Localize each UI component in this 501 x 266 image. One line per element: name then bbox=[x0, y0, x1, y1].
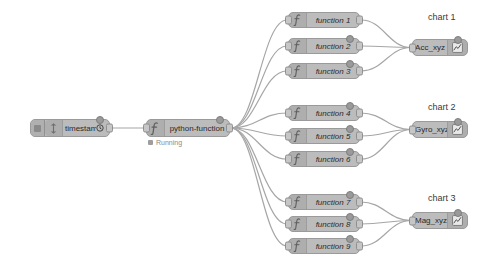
function-input-port[interactable] bbox=[285, 242, 292, 251]
wire-function-to-chart bbox=[361, 221, 411, 225]
wire-function-to-chart bbox=[361, 221, 411, 247]
chart-node-label: Acc_xyz bbox=[413, 43, 447, 52]
function-node-label: function 2 bbox=[307, 42, 359, 51]
function-node[interactable]: function 4 bbox=[288, 105, 360, 121]
function-node-marker bbox=[346, 102, 354, 110]
function-output-port[interactable] bbox=[356, 42, 363, 51]
wire-python-to-function bbox=[231, 128, 287, 202]
function-input-port[interactable] bbox=[285, 132, 292, 141]
wire-function-to-chart bbox=[361, 130, 411, 137]
function-node[interactable]: function 5 bbox=[288, 128, 360, 144]
wire-python-to-function bbox=[231, 46, 287, 128]
inject-node-marker bbox=[96, 116, 104, 124]
inject-node-timestamp[interactable]: timestamp bbox=[30, 119, 110, 137]
wire-function-to-chart bbox=[361, 20, 411, 48]
python-function-marker bbox=[216, 116, 224, 124]
function-node[interactable]: function 1 bbox=[288, 12, 360, 28]
function-output-port[interactable] bbox=[356, 155, 363, 164]
python-function-label: python-function bbox=[165, 124, 229, 133]
function-node-marker bbox=[346, 35, 354, 43]
chart-node-marker bbox=[454, 118, 462, 126]
wire-function-to-chart bbox=[361, 202, 411, 221]
chart-input-port[interactable] bbox=[409, 216, 416, 225]
function-node-marker bbox=[346, 235, 354, 243]
wire-python-to-function bbox=[231, 128, 287, 246]
node-red-flow-canvas[interactable]: timestamp python-function Running functi… bbox=[0, 0, 501, 266]
chart-title: chart 1 bbox=[428, 12, 456, 22]
chart-node-label: Gyro_xyz bbox=[413, 125, 447, 134]
function-output-port[interactable] bbox=[356, 198, 363, 207]
python-function-status-label: Running bbox=[156, 139, 182, 146]
chart-node-marker bbox=[454, 36, 462, 44]
inject-output-port[interactable] bbox=[106, 124, 113, 133]
function-node-marker bbox=[346, 125, 354, 133]
chart-node[interactable]: Mag_xyz bbox=[412, 212, 468, 229]
chart-node-marker bbox=[454, 209, 462, 217]
wire-python-to-function bbox=[231, 71, 287, 128]
chart-node[interactable]: Gyro_xyz bbox=[412, 121, 468, 138]
function-input-port[interactable] bbox=[285, 220, 292, 229]
python-function-output-port[interactable] bbox=[226, 124, 233, 133]
chart-node-label: Mag_xyz bbox=[413, 216, 447, 225]
function-node[interactable]: function 3 bbox=[288, 63, 360, 79]
inject-button-icon[interactable] bbox=[31, 120, 45, 136]
function-node-label: function 5 bbox=[307, 132, 359, 141]
inject-icon bbox=[45, 120, 63, 136]
chart-title: chart 3 bbox=[428, 193, 456, 203]
wire-function-to-chart bbox=[361, 130, 411, 160]
python-function-node[interactable]: python-function bbox=[146, 119, 230, 137]
function-node[interactable]: function 8 bbox=[288, 216, 360, 232]
wire-python-to-function bbox=[231, 128, 287, 159]
chart-title: chart 2 bbox=[428, 102, 456, 112]
function-node-label: function 4 bbox=[307, 109, 359, 118]
function-node[interactable]: function 2 bbox=[288, 38, 360, 54]
function-node-label: function 9 bbox=[307, 242, 359, 251]
chart-input-port[interactable] bbox=[409, 43, 416, 52]
function-node-label: function 1 bbox=[307, 16, 359, 25]
function-input-port[interactable] bbox=[285, 155, 292, 164]
function-input-port[interactable] bbox=[285, 109, 292, 118]
chart-input-port[interactable] bbox=[409, 125, 416, 134]
function-output-port[interactable] bbox=[356, 16, 363, 25]
wire-python-to-function bbox=[231, 128, 287, 224]
python-function-status: Running bbox=[148, 139, 182, 146]
function-node[interactable]: function 7 bbox=[288, 194, 360, 210]
wire-function-to-chart bbox=[361, 46, 411, 48]
function-output-port[interactable] bbox=[356, 132, 363, 141]
wire-function-to-chart bbox=[361, 113, 411, 130]
wire-python-to-function bbox=[231, 113, 287, 128]
clock-icon bbox=[96, 124, 104, 132]
chart-node[interactable]: Acc_xyz bbox=[412, 39, 468, 56]
wire-python-to-function bbox=[231, 128, 287, 136]
function-output-port[interactable] bbox=[356, 67, 363, 76]
function-node[interactable]: function 6 bbox=[288, 151, 360, 167]
function-node-marker bbox=[346, 191, 354, 199]
function-node-marker bbox=[346, 213, 354, 221]
function-output-port[interactable] bbox=[356, 220, 363, 229]
function-input-port[interactable] bbox=[285, 42, 292, 51]
function-node-marker bbox=[346, 60, 354, 68]
function-node-label: function 7 bbox=[307, 198, 359, 207]
function-node-label: function 6 bbox=[307, 155, 359, 164]
function-output-port[interactable] bbox=[356, 242, 363, 251]
function-output-port[interactable] bbox=[356, 109, 363, 118]
python-function-input-port[interactable] bbox=[143, 124, 150, 133]
function-input-port[interactable] bbox=[285, 67, 292, 76]
status-dot-icon bbox=[148, 140, 153, 145]
function-input-port[interactable] bbox=[285, 16, 292, 25]
function-node-label: function 3 bbox=[307, 67, 359, 76]
inject-node-label: timestamp bbox=[63, 124, 96, 133]
function-node[interactable]: function 9 bbox=[288, 238, 360, 254]
wire-function-to-chart bbox=[361, 48, 411, 72]
function-input-port[interactable] bbox=[285, 198, 292, 207]
wire-python-to-function bbox=[231, 20, 287, 128]
function-node-label: function 8 bbox=[307, 220, 359, 229]
function-node-marker bbox=[346, 148, 354, 156]
